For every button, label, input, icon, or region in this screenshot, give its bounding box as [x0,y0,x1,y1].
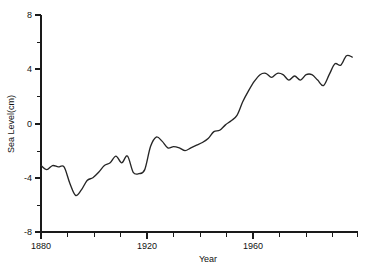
x-axis-title: Year [199,254,217,264]
y-axis-major-ticks [35,15,41,232]
y-tick-label-4: 4 [27,64,32,74]
line-chart-svg: 8 4 0 -4 -8 1880 1920 1960 Year [0,0,370,269]
y-tick-label-8: 8 [27,10,32,20]
x-tick-label-1920: 1920 [137,241,157,251]
chart-figure: 8 4 0 -4 -8 1880 1920 1960 Year [0,0,370,269]
y-tick-label-minus8: -8 [24,227,32,237]
x-axis-minor-ticks [68,232,358,237]
y-axis-title: Sea Level(cm) [6,95,16,153]
y-tick-label-0: 0 [27,119,32,129]
x-tick-label-1880: 1880 [31,241,51,251]
x-axis-major-ticks [41,232,253,239]
y-tick-label-minus4: -4 [24,173,32,183]
sea-level-data-line [41,55,352,195]
x-tick-label-1960: 1960 [243,241,263,251]
